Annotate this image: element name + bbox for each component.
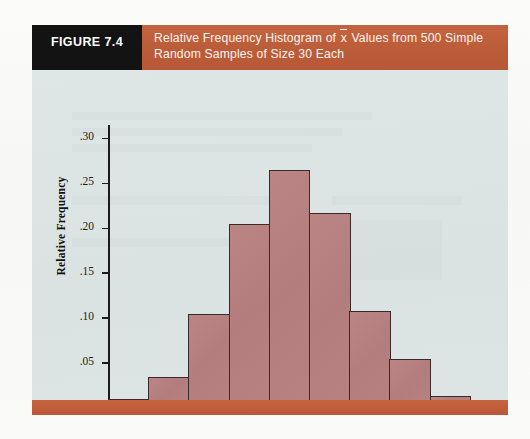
figure-page: FIGURE 7.4 Relative Frequency Histogram … <box>0 0 530 439</box>
figure-header: FIGURE 7.4 Relative Frequency Histogram … <box>32 25 508 70</box>
y-axis-tick <box>102 138 110 140</box>
figure-title-line-2: Random Samples of Size 30 Each <box>154 47 344 61</box>
y-axis-tick-label: .30 <box>60 130 94 142</box>
plot-panel: Relative Frequency Values of x .05.10.15… <box>32 70 508 400</box>
y-axis-tick <box>102 362 110 364</box>
y-axis-tick-label: .25 <box>60 175 94 187</box>
y-axis-tick-label: .15 <box>60 265 94 277</box>
y-axis-tick-label: .20 <box>60 220 94 232</box>
y-axis-tick <box>102 272 110 274</box>
histogram-bar <box>269 170 311 400</box>
histogram-bar <box>389 359 431 400</box>
figure-footer-band <box>32 400 508 415</box>
histogram-chart: Relative Frequency Values of x .05.10.15… <box>32 70 508 400</box>
histogram-bar <box>108 399 150 400</box>
histogram-bar <box>430 396 472 400</box>
histogram-bar <box>148 377 190 400</box>
histogram-bar <box>188 314 230 400</box>
figure-title-part-2: Values from 500 Simple <box>348 31 483 45</box>
figure-number-label: FIGURE 7.4 <box>51 35 123 49</box>
y-axis-tick <box>102 228 110 230</box>
figure-block: FIGURE 7.4 Relative Frequency Histogram … <box>32 25 508 415</box>
figure-title-band: Relative Frequency Histogram of x Values… <box>142 25 508 70</box>
figure-title: Relative Frequency Histogram of x Values… <box>142 25 493 62</box>
histogram-bar <box>229 224 271 400</box>
figure-number-tag: FIGURE 7.4 <box>32 25 142 70</box>
y-axis-line <box>108 125 110 400</box>
y-axis-tick-label: .05 <box>60 355 94 367</box>
y-axis-tick <box>102 317 110 319</box>
histogram-bar <box>349 311 391 400</box>
histogram-bar <box>309 213 351 400</box>
y-axis-tick <box>102 183 110 185</box>
figure-title-part-1: Relative Frequency Histogram of <box>154 31 340 45</box>
xbar-symbol-title: x <box>340 30 348 46</box>
y-axis-tick-label: .10 <box>60 310 94 322</box>
